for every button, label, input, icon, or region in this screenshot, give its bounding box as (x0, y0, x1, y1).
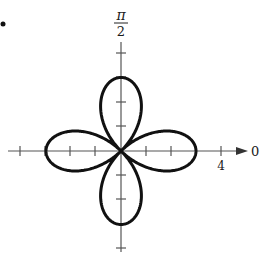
polar-axis-label: 0 (251, 144, 259, 159)
tick-label-4: 4 (217, 159, 225, 173)
arrow-head-icon (236, 147, 248, 155)
polar-rose-diagram: π 2 0 4 (0, 0, 261, 253)
vertical-label-denominator: 2 (117, 24, 125, 39)
bullet-dot (1, 22, 6, 27)
vertical-label-numerator: π (115, 7, 126, 23)
